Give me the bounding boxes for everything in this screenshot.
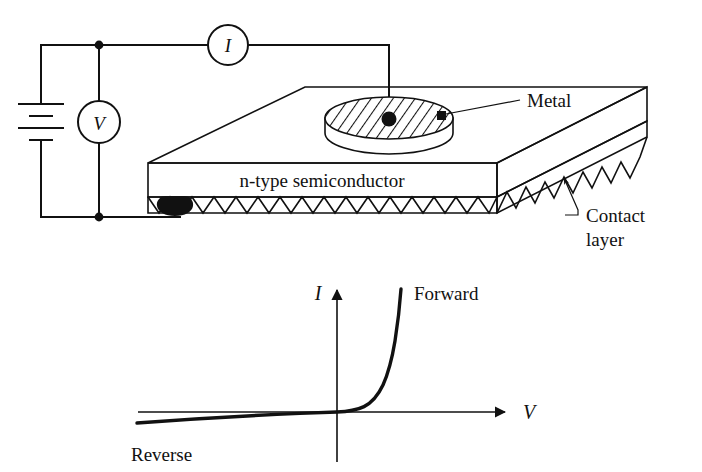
semiconductor-label-n: n bbox=[239, 170, 249, 191]
contact-layer-leader bbox=[564, 178, 578, 215]
contact-layer-front bbox=[148, 197, 497, 213]
contact-layer-side bbox=[497, 121, 647, 213]
contact-layer-callout: Contact layer bbox=[564, 178, 646, 250]
figure-root: I V n-type semic bbox=[0, 0, 702, 472]
voltmeter-label: V bbox=[93, 113, 107, 134]
graph-reverse-label: Reverse bbox=[131, 444, 192, 465]
ohmic-contact-blob bbox=[157, 196, 193, 216]
slab-right-face bbox=[497, 87, 647, 197]
top-junction-node bbox=[95, 41, 104, 50]
semiconductor-label-rest: -type semiconductor bbox=[249, 170, 405, 191]
graph-iv-curve bbox=[137, 289, 401, 423]
contact-layer-front-zigzag bbox=[148, 197, 497, 213]
semiconductor-body-label: n-type semiconductor bbox=[239, 170, 405, 191]
graph-y-axis-label: I bbox=[314, 282, 323, 304]
graph-forward-label: Forward bbox=[414, 283, 479, 304]
iv-characteristic-graph: I V Forward Reverse bbox=[131, 282, 538, 465]
figure-canvas: I V n-type semic bbox=[0, 0, 702, 472]
graph-x-axis-label: V bbox=[523, 401, 538, 423]
ammeter-label: I bbox=[224, 35, 233, 56]
contact-layer-label-line2: layer bbox=[586, 229, 625, 250]
contact-layer-label-line1: Contact bbox=[586, 205, 646, 226]
metal-callout-anchor bbox=[437, 111, 446, 120]
metal-lead-solder-dot bbox=[382, 112, 397, 127]
metal-label: Metal bbox=[527, 90, 571, 111]
metal-callout-leader bbox=[446, 100, 520, 114]
